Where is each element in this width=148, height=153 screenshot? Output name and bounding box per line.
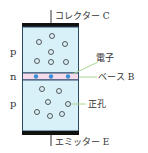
- collector-label: コレクター C: [55, 11, 110, 21]
- layer-label-middle: n: [10, 72, 16, 82]
- collector-electrode: [22, 23, 79, 27]
- hole-label: 正孔: [88, 99, 106, 109]
- emitter-electrode: [22, 131, 79, 135]
- layer-label-bottom: p: [10, 99, 16, 109]
- base-label: ベース B: [98, 72, 134, 82]
- electron-label: 電子: [96, 53, 114, 63]
- emitter-label: エミッター E: [55, 137, 109, 147]
- layer-label-top: p: [10, 47, 16, 57]
